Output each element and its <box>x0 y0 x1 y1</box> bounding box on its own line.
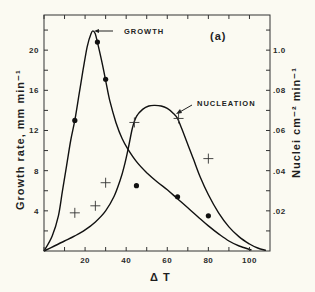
y-tick-label-left: 20 <box>29 46 39 55</box>
y-tick-label-right: .06 <box>273 126 286 135</box>
annotation-nucleation-label: NUCLEATION <box>197 99 256 108</box>
y-tick-label-right: .08 <box>273 86 286 95</box>
curve-nucleation <box>44 105 266 251</box>
data-point-growth <box>95 40 100 45</box>
data-point-growth <box>103 77 108 82</box>
annotation-nucleation-arrowhead <box>176 109 182 114</box>
data-point-nucleation <box>90 201 100 211</box>
annotation-growth-label: GROWTH <box>124 27 164 36</box>
x-tick-label: 20 <box>80 256 90 265</box>
data-point-growth <box>206 213 211 218</box>
y-tick-label-left: 16 <box>29 86 39 95</box>
annotation-growth: GROWTH <box>94 27 164 36</box>
plot-frame <box>44 15 270 251</box>
x-tick-label: 60 <box>162 256 172 265</box>
data-point-nucleation <box>101 178 111 188</box>
x-tick-label: 80 <box>203 256 213 265</box>
x-tick-label: 100 <box>242 256 257 265</box>
data-point-nucleation <box>203 154 213 164</box>
annotation-nucleation: NUCLEATION <box>176 99 256 114</box>
data-point-nucleation <box>129 117 139 127</box>
x-axis-label: Δ T <box>150 271 171 283</box>
curve-growth <box>44 31 252 251</box>
y-tick-label-right: 1.0 <box>273 46 286 55</box>
chart: 2040608010048121620.02.04.06.081.0 (a) G… <box>0 0 315 292</box>
data-point-nucleation <box>70 208 80 218</box>
y-axis-label-left: Growth rate, mm min⁻¹ <box>14 69 26 210</box>
y-tick-label-right: .04 <box>273 167 286 176</box>
y-tick-label-left: 12 <box>29 126 39 135</box>
y-tick-label-left: 8 <box>34 167 39 176</box>
y-tick-label-left: 4 <box>34 207 39 216</box>
data-point-growth <box>175 194 180 199</box>
data-point-growth <box>134 183 139 188</box>
x-tick-label: 40 <box>121 256 131 265</box>
y-tick-label-right: .02 <box>273 207 286 216</box>
data-point-growth <box>72 118 77 123</box>
panel-label: (a) <box>210 30 226 42</box>
y-axis-label-right: Nuclei cm⁻² min⁻¹ <box>290 67 302 178</box>
